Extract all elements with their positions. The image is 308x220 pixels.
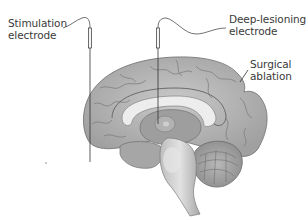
brainstem [160, 138, 200, 216]
stimulation-electrode-label: Stimulation electrode [8, 17, 67, 41]
surgical-ablation-pointer [240, 70, 248, 82]
surgical-ablation-label: Surgical ablation [250, 58, 292, 82]
speck [45, 162, 47, 164]
temporal-lobe [120, 142, 163, 169]
cerebellum [193, 141, 243, 187]
brain-diagram: Stimulation electrode Deep-lesioning ele… [0, 0, 308, 220]
deep-lesioning-electrode-label: Deep-lesioning electrode [229, 13, 306, 37]
stimulation-electrode [63, 17, 92, 162]
